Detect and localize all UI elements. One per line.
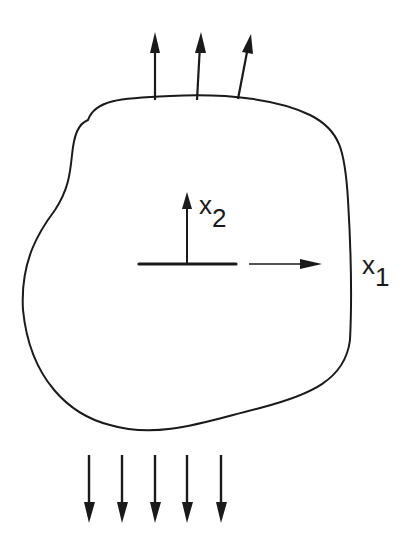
- arrow-up-icon: [238, 34, 253, 99]
- arrow-down-icon: [150, 455, 161, 523]
- bottom-arrows: [84, 455, 227, 523]
- arrow-up-icon: [195, 32, 206, 100]
- x2-label: x2: [199, 190, 226, 233]
- diagram-canvas: x2 x1: [0, 0, 411, 550]
- top-arrows: [150, 32, 253, 100]
- x1-axis-arrow: [249, 259, 322, 269]
- arrow-down-icon: [182, 455, 193, 523]
- x1-label: x1: [362, 250, 389, 292]
- x2-axis-arrow: [182, 192, 192, 264]
- arrow-down-icon: [117, 455, 128, 523]
- arrow-down-icon: [216, 455, 227, 523]
- arrow-up-icon: [150, 32, 160, 100]
- arrow-down-icon: [84, 455, 95, 523]
